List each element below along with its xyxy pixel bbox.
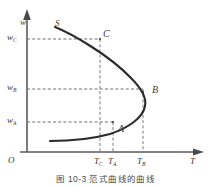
x-tick-TA: TA xyxy=(108,157,116,166)
x-tick-TC: TC xyxy=(94,157,103,166)
point-b-label: B xyxy=(152,85,158,95)
point-b-marker xyxy=(142,91,144,93)
y-tick-wA-sub: A xyxy=(13,120,16,126)
x-tick-TC-sub: C xyxy=(99,161,103,167)
x-axis xyxy=(20,148,204,155)
y-tick-wC-sub: C xyxy=(13,37,17,43)
point-a-label: A xyxy=(118,124,124,134)
x-axis-label: T xyxy=(190,157,195,166)
horizontal-guide-lines xyxy=(27,39,143,122)
y-tick-wC: wC xyxy=(7,33,17,42)
y-axis xyxy=(23,9,31,152)
x-tick-TA-sub: A xyxy=(113,161,116,167)
curve-name-label: S xyxy=(55,19,60,28)
y-axis-label: w xyxy=(20,18,26,27)
figure-caption: 图 10-3 范式曲线的曲线 xyxy=(0,172,211,184)
point-a-marker xyxy=(112,121,114,123)
figure-van-der-waals-curve: w T O wC wB wA TC TA TB S C B A 图 10-3 范… xyxy=(0,0,211,186)
y-tick-wB: wB xyxy=(7,83,16,92)
point-c-label: C xyxy=(103,29,110,39)
origin-label: O xyxy=(8,156,15,165)
y-tick-wB-sub: B xyxy=(13,87,16,93)
x-axis-arrowhead xyxy=(193,148,204,155)
point-c-marker xyxy=(99,38,101,40)
curve-s xyxy=(50,27,145,141)
y-tick-wA: wA xyxy=(7,116,16,125)
x-tick-TB: TB xyxy=(137,157,145,166)
curve-point-markers xyxy=(99,38,144,123)
x-tick-TB-sub: B xyxy=(142,161,145,167)
